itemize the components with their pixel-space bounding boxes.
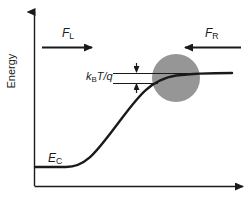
force-right-subscript: R: [212, 31, 218, 41]
force-left-label: FL: [62, 27, 74, 39]
conduction-band-label: EC: [48, 152, 62, 164]
charge-packet-blob: [152, 54, 200, 102]
conduction-band-curve: [35, 73, 232, 167]
thermal-voltage-tq: T/q: [97, 70, 113, 82]
band-diagram-figure: Energy FL FR kBT/q EC: [0, 0, 252, 199]
thermal-voltage-label: kBT/q: [86, 71, 113, 82]
conduction-band-symbol: E: [48, 151, 56, 165]
y-axis-label: Energy: [6, 75, 17, 89]
thermal-voltage-b: B: [92, 75, 97, 84]
force-left-subscript: L: [69, 31, 74, 41]
y-axis-label-text: Energy: [6, 54, 17, 89]
force-right-label: FR: [205, 27, 219, 39]
conduction-band-subscript: C: [56, 156, 62, 166]
thermal-voltage-k: k: [86, 70, 92, 82]
